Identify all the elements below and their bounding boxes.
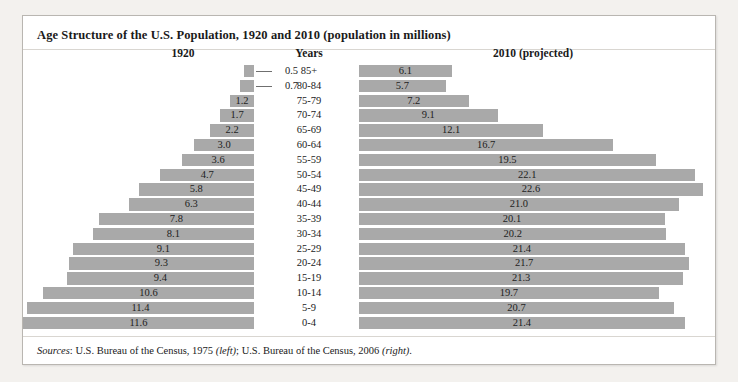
age-group-label: 15-19 [259,271,359,285]
left-bar-zone: 1.7 [23,108,254,123]
left-bar-zone: 8.1 [23,227,254,242]
pyramid-row: 9.320-2421.7 [23,256,715,271]
bar-2010[interactable] [359,139,613,151]
pyramid-row: 0.780-845.7 [23,79,715,94]
left-bar-zone: 0.7 [23,79,254,94]
bar-1920[interactable] [160,169,254,181]
pyramid-row: 2.265-6912.1 [23,123,715,138]
bar-2010[interactable] [359,302,674,314]
bar-2010[interactable] [359,109,498,121]
age-group-label: 45-49 [259,182,359,196]
bar-1920[interactable] [43,287,254,299]
left-bar-zone: 9.4 [23,271,254,286]
right-bar-zone: 21.4 [359,242,715,257]
source-period: . [409,345,412,356]
right-bar-zone: 20.7 [359,301,715,316]
pyramid-row: 10.610-1419.7 [23,286,715,301]
bar-2010[interactable] [359,317,685,329]
pyramid-row: 8.130-3420.2 [23,227,715,242]
bar-1920[interactable] [182,154,254,166]
bar-1920[interactable] [244,65,254,77]
bar-1920[interactable] [93,228,254,240]
age-group-label: 10-14 [259,286,359,300]
pyramid-row: 11.60-421.4 [23,316,715,331]
right-bar-zone: 20.2 [359,227,715,242]
bar-1920[interactable] [240,80,254,92]
source-left-text: U.S. Bureau of the Census, 1975 [75,345,215,356]
right-bar-zone: 21.7 [359,256,715,271]
left-bar-zone: 6.3 [23,197,254,212]
bar-2010[interactable] [359,287,659,299]
left-bar-zone: 11.6 [23,316,254,331]
age-group-label: 55-59 [259,153,359,167]
source-divider [23,336,715,337]
source-right-side: (right) [382,345,409,356]
left-bar-zone: 10.6 [23,286,254,301]
bar-1920[interactable] [194,139,254,151]
bar-1920[interactable] [99,213,254,225]
column-header-2010: 2010 (projected) [443,47,623,59]
bar-2010[interactable] [359,183,703,195]
pyramid-row: 7.835-3920.1 [23,212,715,227]
pyramid-row: 9.125-2921.4 [23,242,715,257]
pyramid-row: 3.655-5919.5 [23,153,715,168]
source-mid-text: ; U.S. Bureau of the Census, 2006 [236,345,382,356]
bar-1920[interactable] [129,198,254,210]
bar-2010[interactable] [359,257,689,269]
left-bar-zone: 1.2 [23,94,254,109]
bar-2010[interactable] [359,228,666,240]
left-bar-zone: 3.6 [23,153,254,168]
pyramid-row: 6.340-4421.0 [23,197,715,212]
age-group-label: 5-9 [259,301,359,315]
right-bar-zone: 22.6 [359,182,715,197]
bar-2010[interactable] [359,95,469,107]
age-group-label: 30-34 [259,227,359,241]
bar-2010[interactable] [359,65,452,77]
bar-1920[interactable] [220,109,254,121]
age-group-label: 0-4 [259,316,359,330]
right-bar-zone: 21.3 [359,271,715,286]
pyramid-row: 5.845-4922.6 [23,182,715,197]
pyramid-row: 1.770-749.1 [23,108,715,123]
left-bar-zone: 0.5 [23,64,254,79]
left-bar-zone: 2.2 [23,123,254,138]
bar-1920[interactable] [139,183,255,195]
bar-2010[interactable] [359,80,446,92]
age-group-label: 20-24 [259,256,359,270]
bar-2010[interactable] [359,198,679,210]
bar-1920[interactable] [27,302,254,314]
right-bar-zone: 21.0 [359,197,715,212]
pyramid-row: 11.45-920.7 [23,301,715,316]
pyramid-row: 3.060-6416.7 [23,138,715,153]
pyramid-row: 1.275-797.2 [23,94,715,109]
figure-panel: Age Structure of the U.S. Population, 19… [22,15,716,365]
left-bar-zone: 7.8 [23,212,254,227]
bar-1920[interactable] [210,124,254,136]
right-bar-zone: 21.4 [359,316,715,331]
bar-2010[interactable] [359,169,695,181]
source-note: Sources: U.S. Bureau of the Census, 1975… [37,345,412,356]
bar-1920[interactable] [69,257,254,269]
population-pyramid: 0.585+6.10.780-845.71.275-797.21.770-749… [23,64,715,330]
bar-1920[interactable] [67,272,254,284]
pyramid-row: 4.750-5422.1 [23,168,715,183]
age-group-label: 25-29 [259,242,359,256]
left-bar-zone: 4.7 [23,168,254,183]
bar-2010[interactable] [359,243,685,255]
age-group-label: 40-44 [259,197,359,211]
bar-2010[interactable] [359,154,656,166]
right-bar-zone: 12.1 [359,123,715,138]
left-bar-zone: 3.0 [23,138,254,153]
left-bar-zone: 5.8 [23,182,254,197]
right-bar-zone: 19.7 [359,286,715,301]
bar-2010[interactable] [359,272,683,284]
pyramid-row: 0.585+6.1 [23,64,715,79]
bar-2010[interactable] [359,213,665,225]
bar-1920[interactable] [73,243,254,255]
bar-1920[interactable] [23,317,254,329]
bar-2010[interactable] [359,124,543,136]
bar-1920[interactable] [230,95,254,107]
age-group-label: 85+ [259,64,359,78]
source-left-side: (left) [216,345,236,356]
age-group-label: 35-39 [259,212,359,226]
